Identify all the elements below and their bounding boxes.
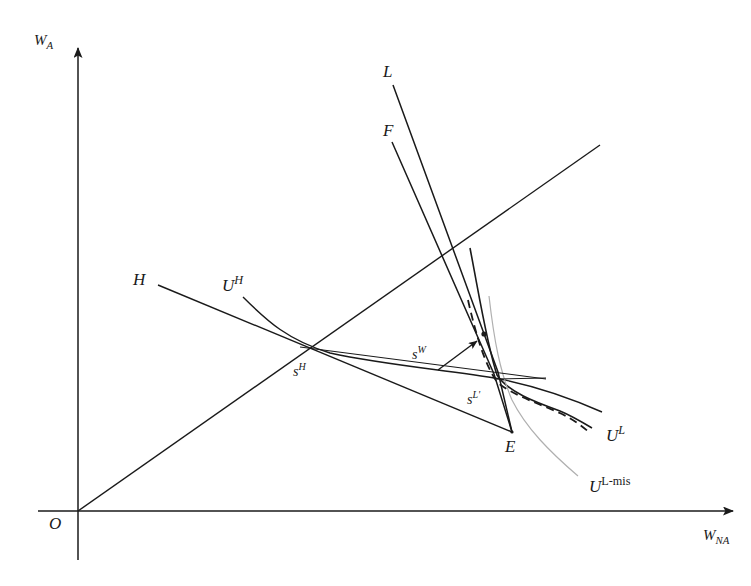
s-h-point-label: sH: [293, 362, 306, 379]
s-w-arrow: [438, 341, 477, 370]
h-line: [158, 285, 512, 432]
y-axis-label-base: W: [34, 32, 47, 48]
h-line-label: H: [133, 271, 145, 288]
u-h-curve-label: UH: [222, 274, 243, 294]
l-line: [393, 85, 512, 432]
e-point-label: E: [505, 438, 515, 455]
e-marker: [510, 430, 513, 433]
s-w-marker: [481, 331, 486, 336]
s-w-label-sup: W: [417, 344, 425, 355]
s-h-label-sup: H: [298, 361, 305, 372]
u-l-mis-label-sup: L-mis: [601, 474, 630, 488]
x-axis-label-sub: NA: [716, 534, 730, 546]
figure-canvas: WA WNA O H L F UH UL UL-mis sH sW sL' E: [0, 0, 751, 586]
f-line: [392, 142, 512, 432]
u-l-curve-label: UL: [606, 424, 625, 444]
origin-label: O: [49, 515, 61, 532]
s-l-prime-label-sup: L': [472, 389, 480, 400]
l-line-label: L: [383, 63, 392, 80]
u-h-label-sup: H: [234, 273, 243, 287]
u-l-dashed-curve: [468, 300, 590, 433]
u-l-mis-curve-label: UL-mis: [589, 475, 631, 495]
x-axis-label: WNA: [703, 528, 729, 546]
f-line-label: F: [383, 122, 393, 139]
diagram-svg: [0, 0, 751, 586]
u-l-mis-label-base: U: [589, 477, 601, 496]
u-l-label-sup: L: [618, 423, 625, 437]
u-h-label-base: U: [222, 276, 234, 295]
x-axis-label-base: W: [703, 527, 716, 543]
u-l-label-base: U: [606, 426, 618, 445]
y-axis-label: WA: [34, 33, 53, 51]
y-axis-label-sub: A: [47, 39, 54, 51]
forty-five-degree-ray: [78, 145, 600, 511]
s-l-prime-point-label: sL': [467, 390, 480, 407]
s-w-point-label: sW: [412, 345, 426, 362]
